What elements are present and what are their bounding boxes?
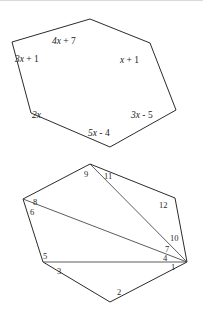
angle-label-1: 1 xyxy=(171,262,175,272)
angle-label-3: 3 xyxy=(57,266,61,276)
angle-label-5: 5 xyxy=(43,251,47,261)
angle-label-12: 12 xyxy=(159,200,168,210)
label-4x-plus-7: 4x + 7 xyxy=(52,36,76,46)
figure-hexagon-with-expressions: 4x + 7 3x + 1 x + 1 2x 3x - 5 5x - 4 xyxy=(0,0,203,155)
label-3x-minus-5: 3x - 5 xyxy=(130,110,153,120)
hexagon-svg: 4x + 7 3x + 1 x + 1 2x 3x - 5 5x - 4 xyxy=(0,0,203,155)
angle-label-8: 8 xyxy=(33,197,37,207)
figure-polygon-with-numbered-angles: 1 2 3 4 5 6 7 8 9 10 11 12 xyxy=(0,152,203,309)
angle-label-6: 6 xyxy=(30,207,34,217)
label-5x-minus-4: 5x - 4 xyxy=(88,128,110,138)
angle-label-10: 10 xyxy=(170,233,179,243)
worksheet-canvas: 4x + 7 3x + 1 x + 1 2x 3x - 5 5x - 4 1 2… xyxy=(0,0,203,309)
angle-label-2: 2 xyxy=(117,287,121,297)
triangulated-polygon-svg: 1 2 3 4 5 6 7 8 9 10 11 12 xyxy=(0,152,203,309)
angle-label-11: 11 xyxy=(104,171,112,181)
label-2x: 2x xyxy=(32,110,42,120)
label-x-plus-1: x + 1 xyxy=(119,55,139,65)
angle-label-9: 9 xyxy=(84,169,88,179)
label-3x-plus-1: 3x + 1 xyxy=(14,54,39,64)
polygon-outline xyxy=(23,164,187,302)
angle-label-7: 7 xyxy=(165,244,169,254)
